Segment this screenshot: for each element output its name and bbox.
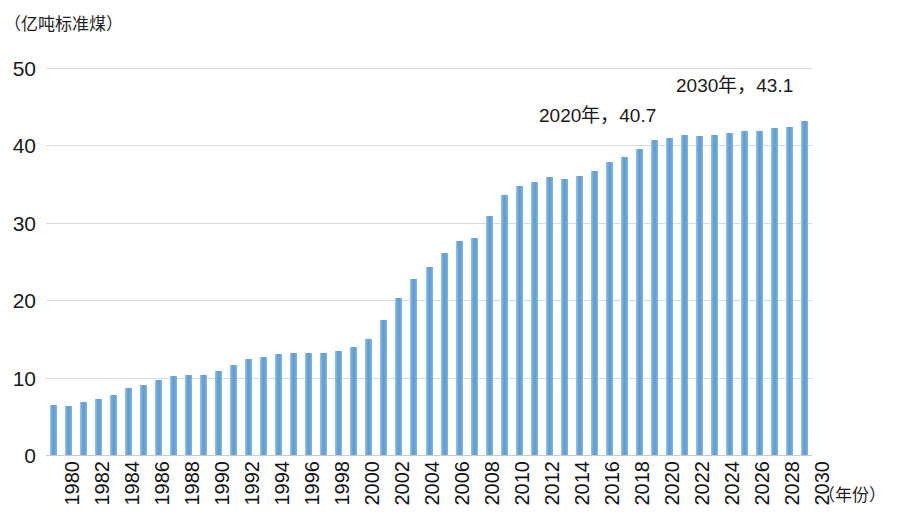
bar-2020	[651, 140, 658, 455]
bar-1985	[125, 388, 132, 455]
bar-2022	[681, 135, 688, 455]
bar-2015	[576, 176, 583, 455]
bar-2005	[426, 267, 433, 455]
x-axis-tick-1990: 1990	[212, 461, 232, 506]
bar-1996	[290, 353, 297, 455]
x-axis-tick-2022: 2022	[692, 461, 712, 506]
x-axis-tick-2024: 2024	[722, 461, 742, 506]
y-axis-unit-label: （亿吨标准煤）	[4, 10, 123, 35]
bar-1991	[215, 371, 222, 455]
bar-2003	[395, 298, 402, 455]
energy-consumption-bar-chart: （亿吨标准煤） 01020304050 19801982198419861988…	[0, 0, 905, 526]
bar-2018	[621, 157, 628, 455]
x-axis-tick-2012: 2012	[542, 461, 562, 506]
bar-1986	[140, 385, 147, 455]
bar-2016	[591, 171, 598, 455]
bar-1988	[170, 376, 177, 455]
bar-2009	[486, 216, 493, 455]
bar-1993	[245, 359, 252, 455]
bar-1980	[50, 405, 57, 455]
bar-2024	[711, 135, 718, 455]
x-axis-tick-1988: 1988	[182, 461, 202, 506]
bar-2021	[666, 138, 673, 455]
x-axis-tick-1996: 1996	[302, 461, 322, 506]
x-axis-tick-2028: 2028	[782, 461, 802, 506]
x-axis-tick-1998: 1998	[332, 461, 352, 506]
bar-1997	[305, 353, 312, 455]
bar-2008	[471, 238, 478, 455]
bar-2025	[726, 133, 733, 455]
bar-1990	[200, 375, 207, 455]
bar-2017	[606, 162, 613, 455]
x-axis-tick-2004: 2004	[422, 461, 442, 506]
bar-2029	[786, 127, 793, 455]
bar-2004	[410, 279, 417, 455]
x-axis-tick-1994: 1994	[272, 461, 292, 506]
x-axis-tick-2002: 2002	[392, 461, 412, 506]
x-axis-tick-1992: 1992	[242, 461, 262, 506]
x-axis-tick-2000: 2000	[362, 461, 382, 506]
bar-1995	[275, 354, 282, 455]
bar-2019	[636, 149, 643, 456]
bar-1981	[65, 406, 72, 455]
bar-2010	[501, 195, 508, 455]
x-axis-tick-2016: 2016	[602, 461, 622, 506]
x-axis-tick-layer: 1980198219841986198819901992199419961998…	[46, 455, 812, 523]
bar-2023	[696, 136, 703, 455]
bar-2026	[741, 131, 748, 455]
bar-1983	[95, 399, 102, 455]
bar-1987	[155, 380, 162, 455]
bar-1984	[110, 395, 117, 455]
x-axis-title: （年份）	[818, 481, 886, 506]
bar-2000	[350, 347, 357, 455]
x-axis-tick-2020: 2020	[662, 461, 682, 506]
bar-1989	[185, 375, 192, 455]
x-axis-tick-2014: 2014	[572, 461, 592, 506]
bar-2014	[561, 179, 568, 455]
bar-2007	[456, 241, 463, 455]
x-axis-tick-2008: 2008	[482, 461, 502, 506]
bar-1999	[335, 351, 342, 455]
bar-2001	[365, 339, 372, 455]
x-axis-tick-2018: 2018	[632, 461, 652, 506]
bar-2013	[546, 177, 553, 455]
bar-1998	[320, 353, 327, 455]
x-axis-tick-1986: 1986	[152, 461, 172, 506]
bar-1992	[230, 365, 237, 455]
bar-2028	[771, 128, 778, 455]
bar-2030	[801, 121, 808, 455]
bar-2027	[756, 131, 763, 455]
annotation-2020: 2020年，40.7	[539, 100, 656, 127]
y-axis-tick-40: 40	[0, 135, 36, 156]
x-axis-tick-2010: 2010	[512, 461, 532, 506]
bar-1994	[260, 357, 267, 455]
x-axis-tick-1982: 1982	[92, 461, 112, 506]
bar-2012	[531, 182, 538, 455]
bar-1982	[80, 402, 87, 455]
y-axis-tick-10: 10	[0, 367, 36, 388]
bar-2011	[516, 186, 523, 455]
bar-2002	[380, 320, 387, 455]
x-axis-tick-2006: 2006	[452, 461, 472, 506]
y-axis-tick-50: 50	[0, 58, 36, 79]
bar-2006	[441, 253, 448, 455]
y-axis-tick-30: 30	[0, 212, 36, 233]
x-axis-tick-2026: 2026	[752, 461, 772, 506]
y-axis-tick-0: 0	[0, 445, 36, 466]
bar-series	[46, 68, 812, 455]
annotation-2030: 2030年，43.1	[676, 70, 793, 97]
y-axis-tick-20: 20	[0, 290, 36, 311]
x-axis-tick-1980: 1980	[62, 461, 82, 506]
x-axis-tick-1984: 1984	[122, 461, 142, 506]
